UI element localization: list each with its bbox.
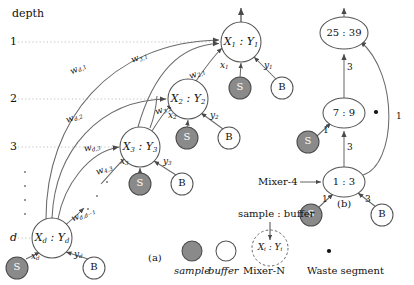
depth-tick-2: 2: [10, 93, 17, 104]
panel-b-weight-mid: 3: [347, 143, 353, 152]
edge-label-x1: x1: [220, 61, 229, 71]
sample-node-1-glyph: S: [230, 82, 250, 92]
edge-label-x3: x3: [120, 157, 129, 167]
panel-b-sample-mid-glyph: S: [298, 136, 318, 146]
buffer-node-d-glyph: B: [84, 262, 104, 272]
edge-label-y3: y3: [163, 157, 172, 167]
panel-b-node-bottom-label: 1 : 3: [322, 177, 366, 187]
mixer-node-2-label: X2 : Y2: [163, 93, 213, 106]
panel-b-weight-top: 3: [347, 63, 353, 72]
buffer-node-1-glyph: B: [272, 82, 292, 92]
panel-b-label: (b): [337, 199, 351, 209]
panel-b-node-mid-label: 7 : 9: [322, 108, 366, 118]
edge-label-y1: y1: [264, 61, 273, 71]
panel-b-node-top-label: 25 : 39: [319, 28, 369, 38]
edge-label-xd: xd: [31, 252, 40, 262]
figure-root: depth 1 2 3 d X1 : Y1 X2 : Y2 X3 : Y3 Xd…: [0, 0, 414, 285]
edge-label-yd: yd: [74, 250, 83, 260]
sample-node-3-glyph: S: [130, 178, 150, 188]
legend-sample-glyph: [182, 241, 202, 261]
depth-tick-3: 3: [10, 141, 17, 152]
buffer-node-2-glyph: B: [219, 132, 239, 142]
panel-a-label: (a): [148, 253, 162, 263]
depth-tick-1: 1: [10, 36, 17, 47]
mixer-node-3-label: X3 : Y3: [115, 141, 165, 154]
legend-waste-label: Waste segment: [307, 266, 384, 276]
panel-b-weight-recycle: 1: [396, 112, 402, 121]
panel-b-weight-buffer-bottom: 3: [365, 195, 371, 204]
panel-b-mixer-callout: Mixer-4: [258, 177, 298, 187]
sample-node-d-glyph: S: [7, 262, 27, 272]
buffer-node-3-glyph: B: [172, 178, 192, 188]
legend-buffer-glyph: [216, 241, 236, 261]
sample-node-2-glyph: S: [177, 132, 197, 142]
legend-sample-label: sample: [174, 266, 210, 276]
mixer-node-d-label: Xd : Yd: [27, 232, 77, 245]
panel-b-weight-sample-mid: 1: [323, 126, 329, 135]
depth-axis-title: depth: [12, 8, 44, 19]
legend-mixer-glyph-text: Xi : Yi: [247, 243, 293, 253]
legend-buffer-label: buffer: [208, 266, 239, 276]
mixer-node-1-label: X1 : Y1: [216, 36, 266, 49]
panel-b-weight-sample-bottom: 1: [322, 195, 328, 204]
depth-tick-d: d: [10, 232, 17, 243]
legend-mixer-label: Mixer-N: [243, 266, 285, 276]
legend-mixer-callout: sample : buffer: [238, 209, 314, 219]
panel-b-buffer-glyph: B: [372, 209, 392, 219]
edge-label-y2: y2: [210, 111, 219, 121]
